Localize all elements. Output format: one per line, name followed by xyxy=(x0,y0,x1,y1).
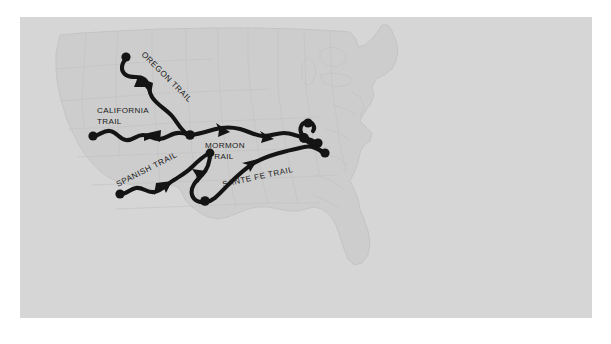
california-trail-label-line1: CALIFORNIA xyxy=(97,106,149,115)
sante-fe-south-bend-dot xyxy=(200,196,210,206)
map-panel: OREGON TRAIL CALIFORNIA TRAIL MORMON TRA… xyxy=(20,17,592,318)
california-trail-label-line2: TRAIL xyxy=(97,117,122,126)
eastern-terminus-south-dot xyxy=(320,148,329,157)
map-figure: OREGON TRAIL CALIFORNIA TRAIL MORMON TRA… xyxy=(0,0,611,344)
spanish-trail-west-terminus-dot xyxy=(115,189,124,198)
us-trails-map-svg: OREGON TRAIL CALIFORNIA TRAIL MORMON TRA… xyxy=(20,17,592,318)
mormon-trail-label-line2: TRAIL xyxy=(209,152,234,161)
mormon-trail-label-line1: MORMON xyxy=(205,141,245,150)
california-trail-west-terminus-dot xyxy=(88,131,97,140)
oregon-trail-west-terminus-dot xyxy=(121,52,130,61)
eastern-hub-dot xyxy=(299,133,309,143)
eastern-terminus-north-dot xyxy=(303,118,312,127)
